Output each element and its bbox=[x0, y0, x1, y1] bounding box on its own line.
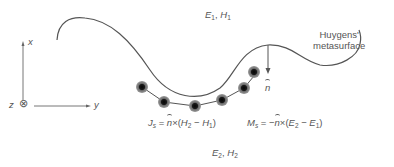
n-hat-symbol: n bbox=[275, 117, 280, 128]
close-paren: ) bbox=[319, 117, 322, 128]
minus: − bbox=[191, 117, 202, 128]
electric-current-equation: Js = n×(H2 − H1) bbox=[148, 117, 216, 129]
subscript: 1 bbox=[227, 14, 231, 21]
scatterer-dot bbox=[216, 94, 228, 106]
n-hat-symbol: n bbox=[265, 82, 270, 93]
y-axis-label: y bbox=[94, 99, 99, 110]
metasurface-label-line2: metasurface bbox=[313, 40, 365, 51]
scatterer-dot bbox=[238, 82, 250, 94]
normal-label: n bbox=[265, 82, 270, 93]
scatterer-dot bbox=[248, 66, 260, 78]
metasurface-label: Huygens' metasurface bbox=[313, 29, 365, 51]
region-bottom-label: E2, H2 bbox=[212, 147, 238, 159]
n-hat-symbol: n bbox=[167, 117, 172, 128]
diagram-canvas bbox=[0, 0, 394, 167]
z-axis-label: z bbox=[9, 99, 14, 110]
y-axis-arrowhead bbox=[86, 105, 91, 108]
scatterer-dot bbox=[158, 96, 170, 108]
symbol-m: M bbox=[247, 117, 255, 128]
z-into-page-icon: ⊗ bbox=[19, 97, 28, 110]
metasurface-label-line1: Huygens' bbox=[313, 29, 365, 40]
cross-product: ×( bbox=[280, 117, 289, 128]
minus: − bbox=[299, 117, 310, 128]
cross-product: ×( bbox=[172, 117, 181, 128]
subscript: 2 bbox=[234, 152, 238, 159]
symbol-h: H bbox=[181, 117, 188, 128]
scatterer-dot bbox=[189, 100, 201, 112]
close-paren: ) bbox=[213, 117, 216, 128]
x-axis-arrowhead bbox=[22, 41, 25, 46]
magnetic-current-equation: Ms = −n×(E2 − E1) bbox=[247, 117, 323, 129]
normal-arrowhead bbox=[266, 68, 271, 74]
scatterer-dot bbox=[136, 81, 148, 93]
region-top-label: E1, H1 bbox=[205, 9, 231, 21]
equals-minus: = − bbox=[258, 117, 274, 128]
x-axis-label: x bbox=[28, 36, 33, 47]
equals: = bbox=[156, 117, 167, 128]
